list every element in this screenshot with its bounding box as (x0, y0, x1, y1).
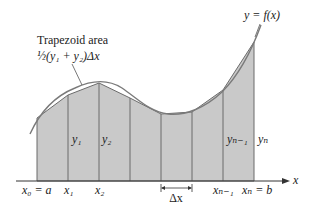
delta-x-label: Δx (169, 191, 183, 205)
function-label: y = f(x) (243, 8, 280, 22)
delta-left-arrow-icon (161, 186, 165, 190)
annotation-title: Trapezoid area (37, 33, 109, 47)
xn-label: xₙ = b (241, 183, 272, 197)
yn-1-label: yₙ₋₁ (226, 132, 248, 146)
x-axis-arrow-icon (282, 178, 290, 184)
xn-1-label: xₙ₋₁ (212, 183, 234, 197)
yn-label: yₙ (257, 132, 268, 146)
y1-label: y₁ (71, 132, 82, 146)
annotation-formula: ½(y₁ + y₂)Δx (37, 49, 100, 63)
x1-label: x₁ (63, 183, 74, 197)
x-axis-label: x (292, 173, 299, 187)
trapezoid-rule-diagram: x y = f(x) Trapezoid area ½(y₁ + y₂)Δx y… (0, 0, 316, 213)
x0-label: x₀ = a (21, 183, 52, 197)
delta-right-arrow-icon (188, 186, 192, 190)
x2-label: x₂ (94, 183, 105, 197)
annotation-leader-line (72, 64, 82, 85)
y2-label: y₂ (101, 132, 112, 146)
